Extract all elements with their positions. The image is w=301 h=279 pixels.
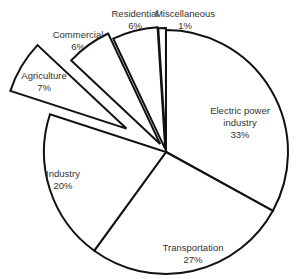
slice-percent: 33% [210,129,270,141]
slice-label-miscellaneous: Miscellaneous1% [155,8,215,32]
slice-label-text: industry [210,117,270,129]
slice-percent: 27% [163,254,224,266]
slice-label-text: Agriculture [21,70,66,82]
slice-label-agriculture: Agriculture7% [21,70,66,94]
slice-percent: 1% [155,20,215,32]
slice-percent: 6% [112,20,159,32]
slice-label-transportation: Transportation27% [163,242,224,266]
slice-label-text: Commercial [53,29,104,41]
slice-percent: 7% [21,82,66,94]
slice-label-residential: Residential6% [112,8,159,32]
slice-percent: 6% [53,41,104,53]
slice-label-text: Industry [46,168,80,180]
slice-label-text: Miscellaneous [155,8,215,20]
slice-label-text: Residential [112,8,159,20]
slice-label-industry: Industry20% [46,168,80,192]
slice-label-text: Transportation [163,242,224,254]
slice-percent: 20% [46,180,80,192]
slice-label-electric-power-industry: Electric powerindustry33% [210,105,270,141]
slice-label-commercial: Commercial6% [53,29,104,53]
slice-label-text: Electric power [210,105,270,117]
